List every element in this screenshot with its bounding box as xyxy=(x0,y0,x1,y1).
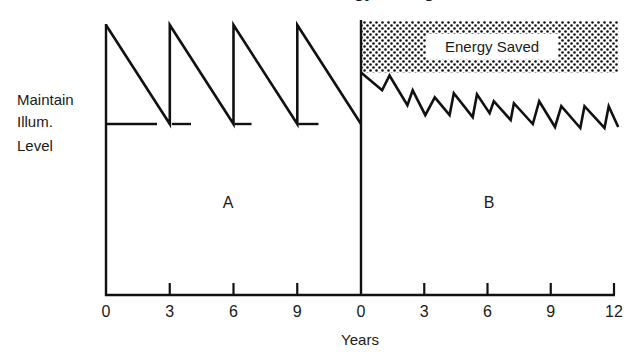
y-axis-label-line-1: Maintain xyxy=(17,91,74,108)
chart: Energy Savings Energy Saved 0369036912 M… xyxy=(0,0,641,359)
x-ticks xyxy=(170,283,614,295)
x-tick-label-b-9: 9 xyxy=(546,303,555,320)
x-axis-label: Years xyxy=(341,331,379,348)
panel-label-a: A xyxy=(223,194,234,211)
x-tick-labels: 0369036912 xyxy=(102,303,623,320)
x-tick-label-a-9: 9 xyxy=(293,303,302,320)
x-tick-label-b-3: 3 xyxy=(420,303,429,320)
energy-saved-label: Energy Saved xyxy=(445,38,539,55)
panel-label-b: B xyxy=(484,194,495,211)
series-line-panel-b xyxy=(361,73,618,129)
y-axis-label-line-3: Level xyxy=(17,137,53,154)
x-tick-label-b-0: 0 xyxy=(357,303,366,320)
x-tick-label-a-6: 6 xyxy=(229,303,238,320)
x-tick-label-a-3: 3 xyxy=(165,303,174,320)
x-tick-label-a-0: 0 xyxy=(102,303,111,320)
y-axis-label-line-2: Illum. xyxy=(17,113,53,130)
x-tick-label-b-6: 6 xyxy=(483,303,492,320)
series-line-panel-a xyxy=(106,25,361,124)
x-tick-label-b-12: 12 xyxy=(605,303,623,320)
chart-title: Energy Savings xyxy=(316,0,444,2)
